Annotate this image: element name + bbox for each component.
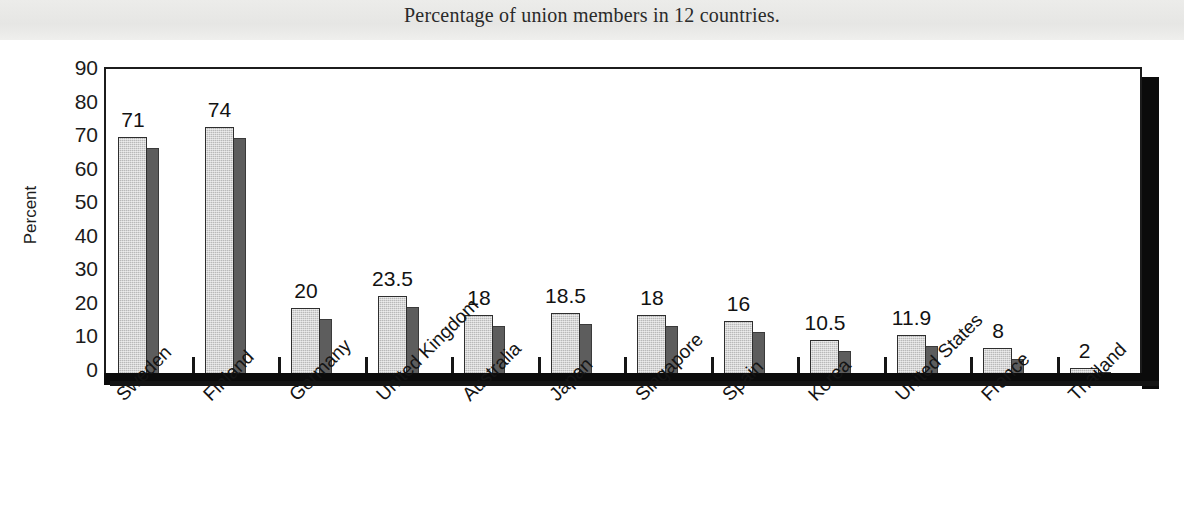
y-tick-label-10: 10 xyxy=(52,325,98,346)
title-band: Percentage of union members in 12 countr… xyxy=(0,0,1184,40)
y-tick-label-0: 0 xyxy=(52,359,98,380)
x-axis-category-labels: SwedenFinlandGermanyUnited KingdomAustra… xyxy=(104,390,1159,530)
y-tick-label-50: 50 xyxy=(52,191,98,212)
y-axis-title: Percent xyxy=(21,170,41,260)
y-tick-label-90: 90 xyxy=(52,57,98,78)
chart-figure: Percent 9080706050403020100 71742023.518… xyxy=(0,40,1184,530)
y-tick-label-30: 30 xyxy=(52,258,98,279)
y-tick-label-20: 20 xyxy=(52,292,98,313)
chart-title: Percentage of union members in 12 countr… xyxy=(0,4,1184,27)
y-tick-label-40: 40 xyxy=(52,225,98,246)
x-axis-tick-marks xyxy=(104,67,1142,375)
y-tick-label-80: 80 xyxy=(52,91,98,112)
plot-right-wall-shadow xyxy=(1142,77,1159,389)
y-tick-label-60: 60 xyxy=(52,158,98,179)
y-axis-tick-labels: 9080706050403020100 xyxy=(48,40,98,380)
y-tick-label-70: 70 xyxy=(52,124,98,145)
